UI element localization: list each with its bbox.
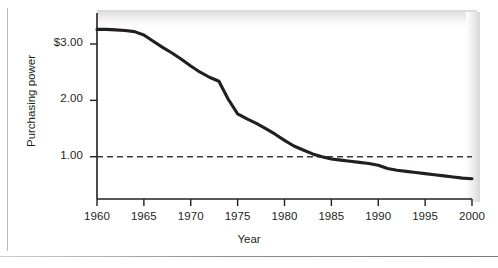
- x-axis-tick-label: 1990: [352, 210, 404, 222]
- x-axis-tick-label: 1965: [118, 210, 170, 222]
- x-axis-tick-label: 1960: [71, 210, 123, 222]
- x-axis-tick-label: 1975: [212, 210, 264, 222]
- x-axis-tick-label: 1995: [399, 210, 451, 222]
- x-axis-tick-label: 1970: [165, 210, 217, 222]
- purchasing-power-line-series: [97, 29, 472, 178]
- y-axis-ticks: [90, 44, 97, 157]
- x-axis-tick-label: 1985: [305, 210, 357, 222]
- x-axis-title: Year: [0, 233, 498, 245]
- y-axis-title: Purchasing power: [25, 21, 37, 181]
- x-axis-ticks: [97, 199, 472, 206]
- x-axis-tick-label: 1980: [259, 210, 311, 222]
- x-axis-tick-label: 2000: [446, 210, 498, 222]
- chart-figure: $3.002.001.00 19601965197019751980198519…: [0, 0, 498, 268]
